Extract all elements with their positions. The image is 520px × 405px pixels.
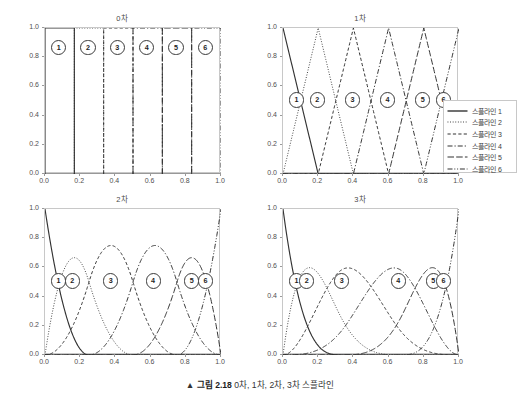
y-tickmark: [280, 325, 283, 326]
panel-degree-2: 2차 0.00.20.40.60.81.00.00.20.40.60.81.01…: [8, 193, 236, 365]
y-tickmark: [280, 115, 283, 116]
x-tickmark: [44, 173, 45, 176]
y-tickmark: [42, 56, 45, 57]
legend-item-4[interactable]: 스플라인 4: [447, 140, 512, 152]
spline-marker-6: 6: [198, 273, 213, 288]
spline-marker-5: 5: [168, 40, 183, 55]
x-tick-label: 0.8: [409, 177, 437, 184]
spline-marker-2: 2: [299, 273, 314, 288]
legend-item-1[interactable]: 스플라인 1: [447, 105, 512, 117]
x-tick-label: 1.0: [206, 358, 234, 365]
spline-marker-2: 2: [80, 40, 95, 55]
y-tickmark: [280, 208, 283, 209]
panel-degree-0: 0차 0.00.20.40.60.81.00.00.20.40.60.81.01…: [8, 12, 236, 184]
x-tickmark: [185, 354, 186, 357]
legend-item-2[interactable]: 스플라인 2: [447, 117, 512, 129]
x-tickmark: [150, 354, 151, 357]
x-tickmark: [150, 173, 151, 176]
x-tick-label: 0.6: [136, 358, 164, 365]
figure-caption: ▲ 그림 2.18 0차, 1차, 2차, 3차 스플라인: [0, 378, 520, 390]
x-tickmark: [352, 354, 353, 357]
y-tick-label: 0.2: [8, 321, 39, 328]
y-tickmark: [42, 325, 45, 326]
y-tick-label: 1.0: [246, 204, 277, 211]
legend-label: 스플라인 1: [472, 106, 502, 116]
y-tickmark: [280, 27, 283, 28]
x-tick-label: 1.0: [206, 177, 234, 184]
y-tick-label: 0.6: [8, 81, 39, 88]
panel-degree-1: 1차 0.00.20.40.60.81.00.00.20.40.60.81.01…: [246, 12, 474, 184]
x-tick-label: 0.2: [303, 177, 331, 184]
y-tick-label: 0.8: [8, 52, 39, 59]
x-tickmark: [220, 354, 221, 357]
y-tick-label: 0.4: [8, 111, 39, 118]
legend-line-icon: [447, 141, 468, 151]
x-tickmark: [185, 173, 186, 176]
legend-item-6[interactable]: 스플라인 6: [447, 163, 512, 175]
legend-line-icon: [447, 164, 468, 174]
legend-line-icon: [447, 106, 468, 116]
y-tickmark: [280, 56, 283, 57]
y-tick-label: 1.0: [8, 23, 39, 30]
x-tick-label: 0.8: [409, 358, 437, 365]
spline-marker-1: 1: [51, 273, 66, 288]
y-tickmark: [42, 296, 45, 297]
x-tick-label: 0.2: [303, 358, 331, 365]
x-tick-label: 0.0: [30, 177, 58, 184]
legend: 스플라인 1스플라인 2스플라인 3스플라인 4스플라인 5스플라인 6: [443, 100, 517, 173]
spline-curve-5: [45, 258, 221, 355]
y-tick-label: 0.0: [246, 169, 277, 176]
y-tickmark: [42, 85, 45, 86]
y-tickmark: [42, 144, 45, 145]
x-tick-label: 0.2: [65, 177, 93, 184]
spline-curve-2: [45, 258, 221, 355]
y-tickmark: [42, 173, 45, 174]
spline-marker-4: 4: [146, 273, 161, 288]
x-tick-label: 0.6: [374, 358, 402, 365]
x-tickmark: [114, 354, 115, 357]
y-tick-label: 0.6: [246, 262, 277, 269]
x-tick-label: 0.4: [100, 358, 128, 365]
y-tick-label: 0.8: [246, 233, 277, 240]
legend-label: 스플라인 5: [472, 152, 502, 162]
spline-marker-3: 3: [345, 92, 360, 107]
spline-marker-6: 6: [198, 40, 213, 55]
spline-curve-4: [45, 246, 221, 356]
x-tickmark: [388, 354, 389, 357]
caption-text: 0차, 1차, 2차, 3차 스플라인: [234, 380, 334, 390]
x-tickmark: [282, 173, 283, 176]
y-tick-label: 0.2: [8, 140, 39, 147]
caption-marker: ▲: [186, 380, 195, 390]
x-tickmark: [44, 354, 45, 357]
y-tickmark: [280, 237, 283, 238]
y-tick-label: 0.0: [246, 350, 277, 357]
y-tickmark: [280, 266, 283, 267]
spline-marker-4: 4: [380, 92, 395, 107]
legend-label: 스플라인 4: [472, 141, 502, 151]
legend-label: 스플라인 2: [472, 117, 502, 127]
x-tickmark: [317, 354, 318, 357]
y-tick-label: 0.4: [246, 111, 277, 118]
x-tickmark: [114, 173, 115, 176]
spline-marker-3: 3: [334, 273, 349, 288]
y-tickmark: [42, 266, 45, 267]
y-tick-label: 0.6: [246, 81, 277, 88]
legend-item-3[interactable]: 스플라인 3: [447, 128, 512, 140]
legend-label: 스플라인 3: [472, 129, 502, 139]
panel-title: 1차: [246, 12, 474, 23]
legend-item-5[interactable]: 스플라인 5: [447, 151, 512, 163]
y-tick-label: 0.8: [246, 52, 277, 59]
y-tickmark: [280, 144, 283, 145]
y-tickmark: [42, 115, 45, 116]
panel-title: 2차: [8, 193, 236, 204]
legend-line-icon: [447, 129, 468, 139]
x-tick-label: 1.0: [444, 358, 472, 365]
x-tick-label: 0.6: [136, 177, 164, 184]
y-tickmark: [42, 27, 45, 28]
x-tickmark: [220, 173, 221, 176]
x-tick-label: 0.8: [171, 358, 199, 365]
x-tickmark: [423, 354, 424, 357]
x-tickmark: [79, 354, 80, 357]
y-tick-label: 0.0: [8, 350, 39, 357]
y-tickmark: [280, 354, 283, 355]
